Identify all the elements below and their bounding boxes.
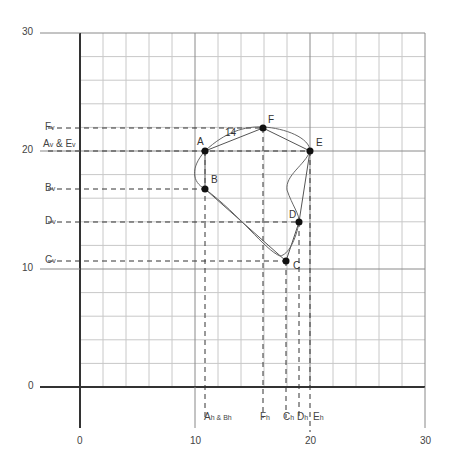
point-d-marker: [296, 219, 303, 226]
point-f-label: F: [268, 115, 274, 125]
label-dv: Dv: [45, 216, 56, 226]
y-tick-0: 0: [28, 381, 34, 391]
diagram: 30 20 10 0 0 10 20 30 A B C D E F 14 Fv …: [0, 0, 454, 467]
label-av-ev: Av & Ev: [43, 139, 76, 149]
x-tick-20: 20: [305, 436, 316, 446]
x-tick-30: 30: [420, 436, 431, 446]
point-f-marker: [260, 125, 267, 132]
x-tick-10: 10: [190, 436, 201, 446]
y-tick-20: 20: [22, 145, 33, 155]
point-a-marker: [202, 148, 209, 155]
point-d-label: D: [289, 210, 296, 220]
point-b-label: B: [211, 175, 218, 185]
freehand-curve: [194, 127, 310, 256]
label-dh: Dh: [297, 412, 308, 422]
major-grid: [80, 33, 425, 387]
label-cv: Cv: [45, 255, 56, 265]
point-e-marker: [307, 148, 314, 155]
label-bv: Bv: [45, 183, 55, 193]
minor-grid: [80, 33, 425, 387]
label-ah-bh: Ah & Bh: [204, 412, 232, 422]
curve-annotation: 14: [225, 128, 236, 138]
y-tick-10: 10: [22, 263, 33, 273]
label-fv: Fv: [45, 122, 55, 132]
x-tick-0: 0: [77, 436, 83, 446]
grid-plot: [0, 0, 454, 467]
label-ch: Ch: [283, 412, 294, 422]
polygon-outline: [205, 128, 310, 261]
y-tick-30: 30: [22, 27, 33, 37]
label-fh: Fh: [260, 412, 270, 422]
point-b-marker: [202, 186, 209, 193]
point-c-label: C: [293, 261, 300, 271]
label-eh: Eh: [313, 412, 324, 422]
point-e-label: E: [316, 138, 323, 148]
point-c-marker: [283, 258, 290, 265]
point-a-label: A: [197, 137, 204, 147]
